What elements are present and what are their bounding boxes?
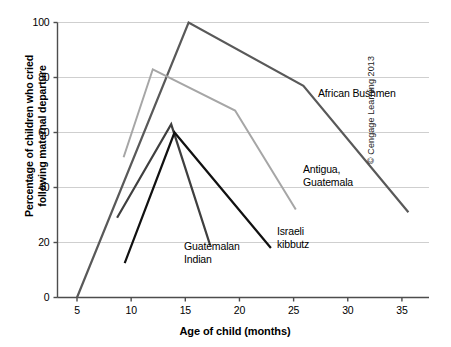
data-series [77,23,408,298]
plot-area [0,0,451,347]
chart-figure: Percentage of children who cried followi… [0,0,451,347]
series-line-3 [117,124,210,245]
series-label-israeli-kibbutz: Israeli kibbutz [277,225,309,250]
copyright-notice: © Cengage Learning 2013 [366,24,376,164]
series-label-antigua-guatemala: Antigua, Guatemala [303,163,353,188]
series-label-guatemalan-indian: Guatemalan Indian [184,240,240,265]
series-line-2 [124,69,296,209]
series-label-african-bushmen: African Bushmen [318,87,396,100]
